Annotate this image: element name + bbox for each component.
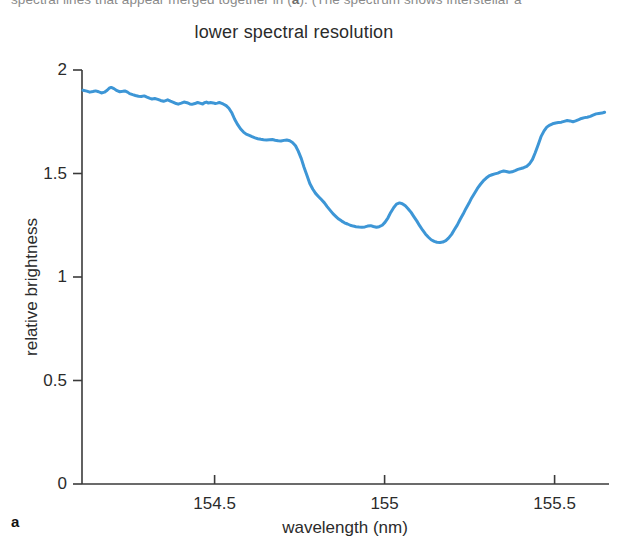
axes bbox=[73, 70, 609, 484]
x-axis-tick-label: 155 bbox=[370, 494, 398, 514]
x-axis-ticks bbox=[215, 475, 555, 484]
y-axis-tick-label: 1 bbox=[0, 267, 67, 287]
plot-area: relative brightness wavelength (nm) 00.5… bbox=[0, 0, 640, 555]
spectrum-plot-svg bbox=[0, 0, 640, 555]
y-axis-tick-label: 1.5 bbox=[0, 164, 67, 184]
y-axis-tick-label: 2 bbox=[0, 60, 67, 80]
panel-label: a bbox=[11, 513, 19, 530]
spectrum-line bbox=[83, 87, 605, 242]
x-axis-tick-label: 154.5 bbox=[193, 494, 236, 514]
x-axis-tick-label: 155.5 bbox=[533, 494, 576, 514]
y-axis-ticks bbox=[73, 70, 82, 484]
y-axis-tick-label: 0.5 bbox=[0, 371, 67, 391]
x-axis-title: wavelength (nm) bbox=[82, 518, 608, 538]
y-axis-tick-label: 0 bbox=[0, 474, 67, 494]
data-series-group bbox=[83, 87, 605, 242]
